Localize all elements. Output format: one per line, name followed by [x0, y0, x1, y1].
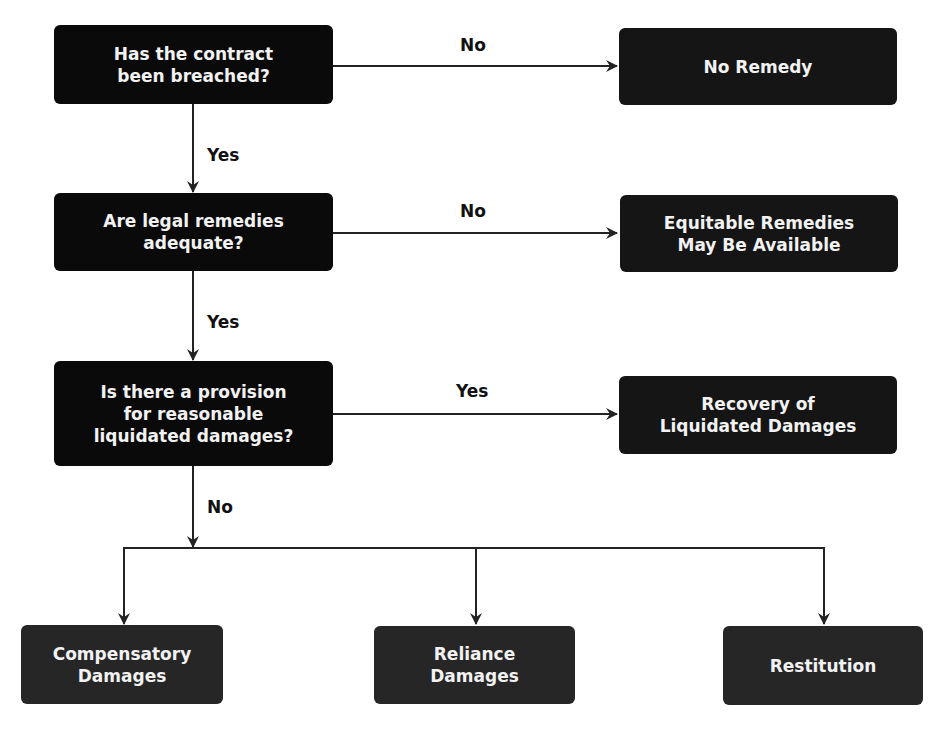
edge-label-q3-yes: Yes — [456, 381, 488, 401]
question-legal-remedies-adequate: Are legal remedies adequate? — [54, 193, 333, 271]
outcome-restitution: Restitution — [723, 626, 923, 705]
result-no-remedy: No Remedy — [619, 28, 897, 105]
question-contract-breached: Has the contract been breached? — [54, 25, 333, 104]
edge-label-q1-no: No — [460, 35, 486, 55]
edge-label-q2-no: No — [460, 201, 486, 221]
outcome-compensatory-damages: Compensatory Damages — [21, 625, 223, 704]
edge-label-q3-no: No — [207, 497, 233, 517]
edge-label-q1-yes: Yes — [207, 145, 239, 165]
edge-label-q2-yes: Yes — [207, 312, 239, 332]
result-equitable-remedies: Equitable Remedies May Be Available — [620, 195, 898, 272]
question-liquidated-damages-provision: Is there a provision for reasonable liqu… — [54, 361, 333, 466]
result-liquidated-damages-recovery: Recovery of Liquidated Damages — [619, 376, 897, 454]
outcome-reliance-damages: Reliance Damages — [374, 626, 575, 704]
